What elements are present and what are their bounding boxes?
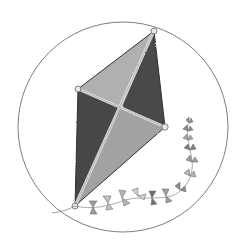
tail-bow (184, 144, 196, 150)
kite-vertex-top (151, 28, 157, 34)
tail-bow (186, 117, 193, 123)
kite-vertex-left (75, 86, 81, 92)
kite (72, 28, 168, 209)
tail-bow (119, 190, 130, 206)
kite-cross (120, 105, 123, 108)
kite-illustration (0, 0, 247, 252)
tail-bow (184, 169, 196, 177)
tail-bow (103, 196, 113, 210)
tail-bow (162, 189, 172, 203)
kite-vertex-right (162, 124, 168, 130)
